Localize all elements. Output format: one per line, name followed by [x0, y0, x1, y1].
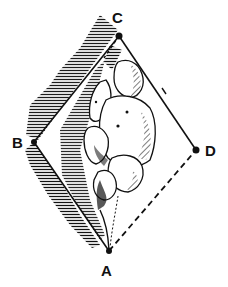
diagram-drawing — [0, 0, 228, 287]
label-d: D — [205, 143, 216, 158]
vertex-b — [31, 139, 37, 145]
label-c: C — [112, 10, 123, 25]
tick-mark — [162, 88, 166, 94]
label-a: A — [101, 263, 112, 278]
vertex-a — [106, 248, 112, 254]
rock-rhombus-diagram: C B D A — [0, 0, 228, 287]
label-b: B — [12, 135, 23, 150]
vertex-c — [116, 33, 123, 40]
vertex-d — [193, 147, 200, 154]
